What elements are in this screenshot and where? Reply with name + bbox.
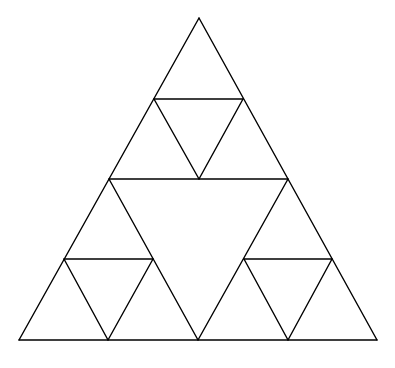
edge-top-sub-left-diag (154, 99, 199, 179)
sierpinski-triangle-figure (0, 0, 395, 368)
edge-right-sub-left-diag (244, 259, 288, 340)
edge-top-sub-right-diag (199, 99, 243, 179)
edge-left-sub-left-diag (64, 259, 108, 340)
edge-right-sub-right-diag (288, 259, 332, 340)
sierpinski-diagram (0, 0, 395, 368)
edge-left-sub-right-diag (108, 259, 153, 340)
